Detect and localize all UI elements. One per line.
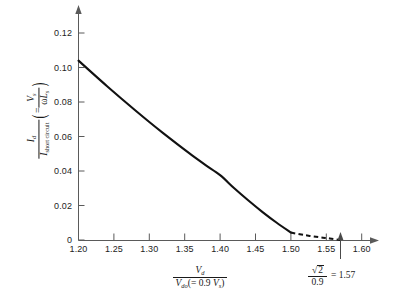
right-paren: ) — [33, 83, 45, 87]
y-axis-label-fraction: Id Ishort circuit — [28, 119, 51, 158]
y-axis-paren-fraction: Vs ωLs — [27, 88, 50, 108]
sqrt2-equals-value: = 1.57 — [331, 271, 355, 281]
y-axis-label-numerator: Id — [28, 119, 40, 158]
sqrt2-denominator: 0.9 — [308, 277, 327, 288]
sqrt2-numerator: √2 — [308, 265, 327, 277]
y-axis-paren-numerator: Vs — [27, 88, 39, 108]
y-axis-label: Id Ishort circuit (= Vs ωLs ) — [27, 81, 50, 158]
x-axis-label-fraction: Vd Vdo(= 0.9 Vs) — [173, 266, 228, 289]
x-axis-label-numerator: Vd — [173, 266, 228, 278]
x-axis-label-denominator: Vdo(= 0.9 Vs) — [173, 278, 228, 290]
x-axis — [79, 237, 380, 243]
chart-figure: 0 0.02 0.04 0.06 0.08 0.10 0.12 1.20 1.2… — [0, 0, 405, 307]
left-paren: ( — [33, 114, 45, 118]
y-axis-label-denominator: Ishort circuit — [39, 119, 50, 158]
y-axis-paren-denominator: ωLs — [39, 88, 51, 108]
x-tick-label: 1.20 — [70, 244, 88, 254]
x-tick-marks — [79, 234, 362, 241]
x-tick-label: 1.60 — [353, 244, 371, 254]
x-tick-label: 1.55 — [317, 244, 335, 254]
sqrt2-fraction: √2 0.9 — [308, 265, 327, 288]
x-tick-label: 1.30 — [140, 244, 158, 254]
y-axis-label-container: Id Ishort circuit (= Vs ωLs ) — [0, 0, 78, 240]
radical-icon: √2 — [311, 265, 324, 276]
x-axis-label: Vd Vdo(= 0.9 Vs) — [125, 266, 275, 289]
sqrt2-marker-arrow — [338, 232, 344, 259]
y-axis-paren-equals: = — [34, 108, 44, 113]
sqrt2-over-0.9-annotation: √2 0.9 = 1.57 — [308, 265, 355, 288]
data-curve-dashed — [291, 233, 341, 240]
data-curve-solid — [79, 61, 291, 233]
x-tick-label: 1.40 — [211, 244, 229, 254]
x-tick-label: 1.45 — [247, 244, 265, 254]
x-tick-label: 1.50 — [282, 244, 300, 254]
x-tick-label: 1.25 — [105, 244, 123, 254]
x-tick-label: 1.35 — [176, 244, 194, 254]
